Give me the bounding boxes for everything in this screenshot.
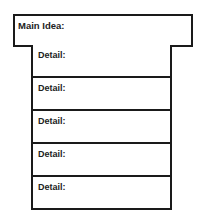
detail-box: Detail: (31, 144, 172, 177)
detail-label: Detail: (38, 50, 66, 60)
detail-box: Detail: (31, 78, 172, 111)
detail-label: Detail: (38, 83, 66, 93)
main-idea-box: Main Idea: (13, 14, 193, 47)
main-idea-label: Main Idea: (18, 20, 64, 31)
details-list: Detail: Detail: Detail: Detail: Detail: (31, 45, 172, 210)
detail-label: Detail: (38, 182, 66, 192)
detail-label: Detail: (38, 149, 66, 159)
detail-box: Detail: (31, 45, 172, 78)
detail-box: Detail: (31, 177, 172, 210)
detail-box: Detail: (31, 111, 172, 144)
detail-label: Detail: (38, 116, 66, 126)
